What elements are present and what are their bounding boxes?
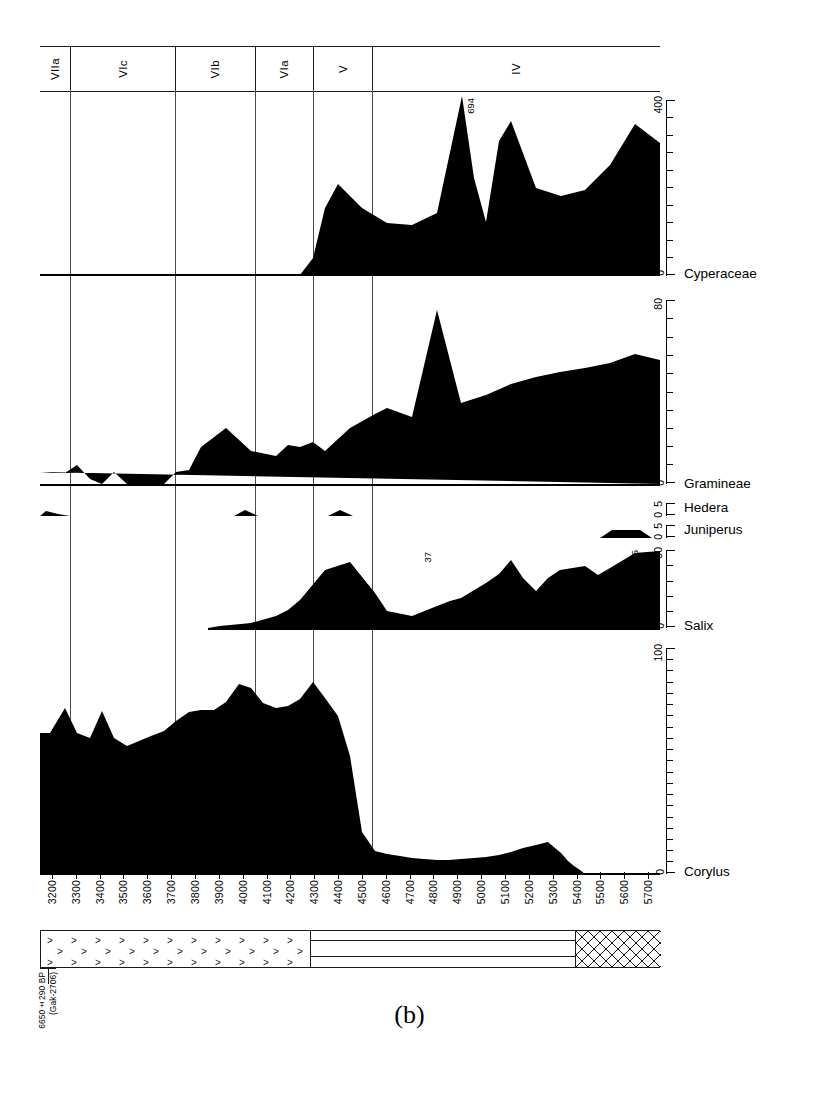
x-axis-label-text: 3500 bbox=[117, 880, 129, 904]
x-axis-label: 3800 bbox=[189, 880, 201, 906]
x-axis-tick bbox=[553, 872, 554, 879]
peat-chevron-icon: > bbox=[119, 958, 125, 967]
date-tick-bar bbox=[40, 968, 56, 969]
gramineae-area bbox=[40, 298, 660, 484]
x-axis-label-text: 4900 bbox=[451, 880, 463, 904]
peat-chevron-icon: > bbox=[263, 958, 269, 967]
x-axis-label-text: 3200 bbox=[46, 880, 58, 904]
peat-chevron-icon: > bbox=[95, 958, 101, 967]
peat-chevron-icon: > bbox=[239, 958, 245, 967]
x-axis-label-text: 4300 bbox=[308, 880, 320, 904]
salix-axis-min: 0 bbox=[654, 619, 666, 631]
x-axis-label-text: 4600 bbox=[380, 880, 392, 904]
peat-chevron-icon: > bbox=[47, 936, 53, 946]
taxon-label-corylus: Corylus bbox=[684, 864, 730, 879]
x-axis-label-text: 3600 bbox=[141, 880, 153, 904]
curve-panel-salix bbox=[40, 548, 660, 628]
x-axis-tick bbox=[505, 872, 506, 879]
peat-chevron-icon: > bbox=[105, 947, 111, 957]
strat-segment-detritus-peat: >>>>>>>>>>>>>>>>>>>>>>>>>>>>>>>>> bbox=[41, 931, 311, 967]
taxon-label-salix: Salix bbox=[684, 618, 713, 633]
taxon-label-gramineae: Gramineae bbox=[684, 476, 751, 491]
x-axis-tick bbox=[76, 872, 77, 879]
pollen-zone-bar: VIIa VIc VIb VIa V IV bbox=[40, 46, 660, 92]
x-axis-label-text: 5300 bbox=[547, 880, 559, 904]
salix-peak-value-2: 35 bbox=[629, 550, 640, 563]
juniperus-axis-min: 0 bbox=[652, 530, 664, 542]
peat-chevron-icon: > bbox=[191, 936, 197, 946]
zone-cell-viia: VIIa bbox=[40, 47, 70, 91]
x-axis-tick bbox=[529, 872, 530, 879]
x-axis-label: 3900 bbox=[213, 880, 225, 906]
x-axis-label-text: 4200 bbox=[284, 880, 296, 904]
cyperaceae-axis-max: 400 bbox=[652, 96, 664, 116]
x-axis-tick bbox=[267, 872, 268, 879]
hedera-area bbox=[40, 502, 660, 516]
peat-chevron-icon: > bbox=[287, 936, 293, 946]
zone-label: VIc bbox=[117, 60, 129, 78]
peat-chevron-icon: > bbox=[71, 936, 77, 946]
peat-chevron-icon: > bbox=[191, 958, 197, 967]
x-axis-label-text: 5700 bbox=[642, 880, 654, 904]
peat-chevron-icon: > bbox=[177, 947, 183, 957]
zone-label: V bbox=[337, 65, 349, 73]
peat-chevron-icon: > bbox=[287, 958, 293, 967]
x-axis-tick bbox=[314, 872, 315, 879]
x-axis-label-text: 4000 bbox=[237, 880, 249, 904]
x-axis-tick bbox=[243, 872, 244, 879]
peat-chevron-icon: > bbox=[129, 947, 135, 957]
x-axis-label: 3600 bbox=[141, 880, 153, 906]
curve-panel-juniperus bbox=[40, 524, 660, 538]
zone-label: IV bbox=[510, 63, 522, 75]
peat-chevron-icon: > bbox=[167, 958, 173, 967]
x-axis-label-text: 5500 bbox=[594, 880, 606, 904]
taxon-label-juniperus: Juniperus bbox=[684, 522, 743, 537]
x-axis-label-text: 3300 bbox=[70, 880, 82, 904]
peat-chevron-icon: > bbox=[47, 958, 53, 967]
x-axis-tick bbox=[219, 872, 220, 879]
peat-chevron-icon: > bbox=[263, 936, 269, 946]
x-axis-label-text: 4700 bbox=[404, 880, 416, 904]
x-axis-label: 4100 bbox=[261, 880, 273, 906]
x-axis-label: 4500 bbox=[356, 880, 368, 906]
curve-panel-corylus bbox=[40, 646, 660, 874]
peat-chevron-icon: > bbox=[81, 947, 87, 957]
stratigraphy-column: >>>>>>>>>>>>>>>>>>>>>>>>>>>>>>>>> bbox=[40, 930, 660, 968]
x-axis-label: 4000 bbox=[237, 880, 249, 906]
corylus-axis-max: 100 bbox=[652, 644, 664, 664]
x-axis-label: 5300 bbox=[547, 880, 559, 906]
peat-chevron-icon: > bbox=[215, 936, 221, 946]
x-axis-tick bbox=[123, 872, 124, 879]
pollen-diagram-figure: VIIa VIc VIb VIa V IV 694 bbox=[0, 0, 819, 1100]
peat-chevron-icon: > bbox=[297, 947, 303, 957]
x-axis-label: 4700 bbox=[404, 880, 416, 906]
x-axis-label: 5200 bbox=[523, 880, 535, 906]
x-axis-tick bbox=[577, 872, 578, 879]
x-axis-label: 5100 bbox=[499, 880, 511, 906]
x-axis-label-text: 5000 bbox=[475, 880, 487, 904]
x-axis-label-text: 3700 bbox=[165, 880, 177, 904]
x-axis-tick bbox=[624, 872, 625, 879]
x-axis-label: 3200 bbox=[46, 880, 58, 906]
peat-chevron-icon: > bbox=[95, 936, 101, 946]
x-axis-label-text: 4800 bbox=[427, 880, 439, 904]
peat-chevron-icon: > bbox=[143, 936, 149, 946]
x-axis-tick bbox=[100, 872, 101, 879]
gramineae-baseline bbox=[40, 484, 660, 486]
x-axis-label: 5000 bbox=[475, 880, 487, 906]
salix-peak-value-1: 37 bbox=[422, 552, 433, 565]
x-axis-label: 4600 bbox=[380, 880, 392, 906]
x-axis-label: 3300 bbox=[70, 880, 82, 906]
peat-chevron-icon: > bbox=[119, 936, 125, 946]
x-axis-label-text: 5400 bbox=[571, 880, 583, 904]
x-axis-label-text: 5100 bbox=[499, 880, 511, 904]
x-axis-label-text: 5600 bbox=[618, 880, 630, 904]
x-axis-label-text: 4100 bbox=[261, 880, 273, 904]
corylus-area bbox=[40, 646, 660, 874]
x-axis-label: 5700 bbox=[642, 880, 654, 906]
peat-chevron-icon: > bbox=[225, 947, 231, 957]
zone-label: VIb bbox=[209, 60, 221, 78]
taxon-label-cyperaceae: Cyperaceae bbox=[684, 266, 757, 281]
x-axis-label: 4300 bbox=[308, 880, 320, 906]
gramineae-axis-max: 80 bbox=[652, 298, 664, 312]
